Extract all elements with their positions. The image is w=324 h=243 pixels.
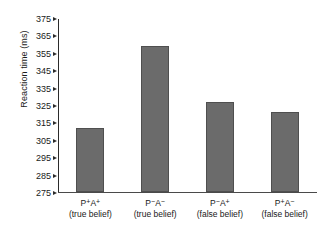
bar xyxy=(206,102,234,192)
y-axis-line xyxy=(58,19,59,193)
bar xyxy=(271,112,299,192)
category-label-line1: P+A− xyxy=(245,198,324,209)
category-label-line2: (false belief) xyxy=(245,209,324,220)
y-tick-mark xyxy=(53,191,57,195)
y-tick-mark xyxy=(53,52,57,56)
y-tick-label: 325 xyxy=(36,102,51,111)
y-axis-title: Reaction time (ms) xyxy=(19,0,29,139)
y-tick-mark xyxy=(53,104,57,108)
y-tick-label: 345 xyxy=(36,67,51,76)
y-tick-label: 375 xyxy=(36,15,51,24)
y-tick-mark xyxy=(53,139,57,143)
y-tick-label: 315 xyxy=(36,119,51,128)
y-tick-label: 355 xyxy=(36,49,51,58)
bar xyxy=(76,128,104,192)
x-axis-line xyxy=(58,192,317,193)
y-tick-label: 305 xyxy=(36,136,51,145)
y-tick-mark xyxy=(53,156,57,160)
y-tick-mark xyxy=(53,174,57,178)
y-tick-mark xyxy=(53,34,57,38)
y-tick-label: 275 xyxy=(36,189,51,198)
bar-chart-figure: Reaction time (ms) 275285295305315325335… xyxy=(0,0,324,243)
plot-area: 275285295305315325335345355365375 xyxy=(58,19,317,193)
bar xyxy=(141,46,169,192)
y-tick-mark xyxy=(53,87,57,91)
y-tick-mark xyxy=(53,69,57,73)
y-tick-label: 285 xyxy=(36,171,51,180)
y-tick-label: 295 xyxy=(36,154,51,163)
category-label: P+A−(false belief) xyxy=(245,198,324,220)
y-tick-label: 335 xyxy=(36,84,51,93)
y-tick-mark xyxy=(53,121,57,125)
y-tick-label: 365 xyxy=(36,32,51,41)
y-tick-mark xyxy=(53,17,57,21)
